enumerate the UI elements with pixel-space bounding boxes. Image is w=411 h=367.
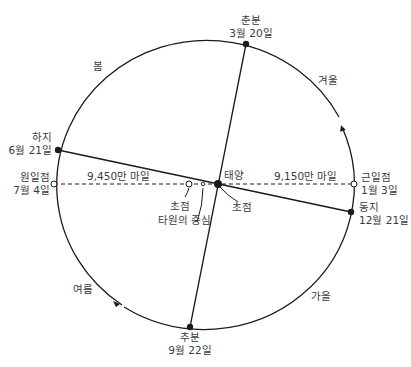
- aphelion-label: 원일점 7월 4일: [0, 171, 50, 197]
- season-summer-label: 여름: [73, 283, 93, 296]
- empty-focus-label: 초점: [170, 200, 190, 213]
- sun-focus-label: 초점: [232, 201, 252, 214]
- orbit-direction-arrow-icon: [338, 124, 346, 132]
- summer-solstice-name: 하지: [2, 131, 52, 144]
- orbit-ellipse: [57, 40, 355, 329]
- perihelion-label: 근일점 1월 3일: [361, 171, 398, 197]
- ellipse-center-label: 타원의 중심: [158, 214, 211, 227]
- vernal-equinox-dot: [243, 41, 249, 47]
- aphelion-name: 원일점: [0, 171, 50, 184]
- winter-solstice-label: 동지 12월 21일: [359, 201, 409, 227]
- season-spring-label: 봄: [93, 60, 103, 73]
- vernal-equinox-label: 춘분 3월 20일: [226, 14, 276, 40]
- winter-solstice-dot: [348, 209, 354, 215]
- orbit-diagram: [0, 0, 411, 367]
- vernal-equinox-date: 3월 20일: [226, 27, 276, 40]
- winter-solstice-name: 동지: [359, 201, 409, 214]
- summer-solstice-dot: [55, 147, 61, 153]
- summer-solstice-label: 하지 6월 21일: [2, 131, 52, 157]
- perihelion-name: 근일점: [361, 171, 398, 184]
- aphelion-distance-label: 9,450만 마일: [87, 170, 150, 183]
- summer-solstice-date: 6월 21일: [2, 144, 52, 157]
- vernal-equinox-name: 춘분: [226, 14, 276, 27]
- empty-focus-dot: [186, 181, 192, 187]
- autumnal-equinox-label: 추분 9월 22일: [165, 331, 215, 357]
- focus-pointer: [185, 188, 189, 197]
- season-winter-label: 겨울: [318, 74, 338, 87]
- sun-dot: [214, 180, 222, 188]
- ellipse-center-dot: [201, 182, 205, 186]
- aphelion-dot: [51, 181, 57, 187]
- perihelion-distance-label: 9,150만 마일: [274, 170, 337, 183]
- perihelion-date: 1월 3일: [361, 184, 398, 197]
- sun-label: 태양: [224, 169, 244, 182]
- autumnal-equinox-name: 추분: [165, 331, 215, 344]
- winter-solstice-date: 12월 21일: [359, 214, 409, 227]
- season-autumn-label: 가을: [311, 290, 331, 303]
- autumnal-equinox-date: 9월 22일: [165, 344, 215, 357]
- autumnal-equinox-dot: [187, 324, 193, 330]
- perihelion-dot: [351, 181, 357, 187]
- sun-focus-pointer: [220, 187, 238, 202]
- aphelion-date: 7월 4일: [0, 184, 50, 197]
